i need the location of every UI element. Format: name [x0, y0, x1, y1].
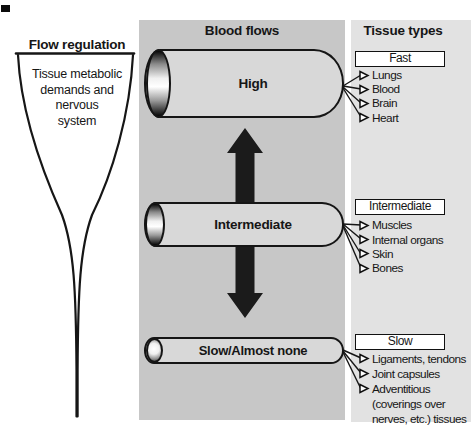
tissue-category-box-intermediate: Intermediate	[355, 199, 445, 215]
tissue-item-label: Ligaments, tendons	[372, 352, 466, 366]
triangle-bullet-icon	[359, 383, 370, 394]
triangle-bullet-icon	[359, 70, 370, 81]
tissue-item-continuation: nerves, etc.) tissues	[359, 412, 473, 427]
funnel-caption-line: Tissue metabolic	[25, 67, 129, 83]
tissue-item: Joint capsules	[359, 366, 473, 381]
tissue-list-fast: Lungs Blood Brain Heart	[359, 68, 473, 125]
funnel-caption-line: system	[25, 114, 129, 130]
tissue-item-continuation: (coverings over	[359, 397, 473, 412]
cylinder-high-label: High	[162, 49, 344, 118]
tissue-item-label: Blood	[372, 82, 400, 96]
tissue-item: Skin	[359, 247, 473, 261]
tissue-item: Ligaments, tendons	[359, 351, 473, 366]
funnel-caption: Tissue metabolic demands and nervous sys…	[25, 67, 129, 130]
tissue-item-label: Lungs	[372, 68, 402, 82]
tissue-item: Bones	[359, 261, 473, 275]
tissue-item-label: Bones	[372, 261, 403, 275]
tissue-item-label: Muscles	[372, 218, 412, 232]
blood-flow-diagram: Flow regulation Tissue metabolic demands…	[0, 0, 474, 440]
tissue-item-label: Joint capsules	[372, 367, 440, 381]
tissue-item-label: Internal organs	[372, 233, 443, 247]
triangle-bullet-icon	[359, 84, 370, 95]
tissue-item: Brain	[359, 96, 473, 110]
triangle-bullet-icon	[359, 368, 370, 379]
tissue-category-box-fast: Fast	[355, 51, 445, 67]
cylinder-slow-cap	[146, 338, 163, 363]
tissue-item-label: Skin	[372, 247, 393, 261]
tissue-item-label: Adventitious	[372, 382, 430, 396]
tissue-item-label: Brain	[372, 96, 397, 110]
triangle-bullet-icon	[359, 263, 370, 274]
triangle-bullet-icon	[359, 248, 370, 259]
funnel-caption-line: nervous	[25, 98, 129, 114]
triangle-bullet-icon	[359, 353, 370, 364]
cylinder-slow-label: Slow/Almost none	[162, 337, 344, 364]
cylinder-intermediate-label: Intermediate	[162, 202, 344, 247]
triangle-bullet-icon	[359, 220, 370, 231]
tissue-item-label: nerves, etc.) tissues	[372, 412, 466, 426]
tissue-item: Muscles	[359, 218, 473, 232]
tissue-item: Blood	[359, 82, 473, 96]
tissue-item: Heart	[359, 111, 473, 125]
tissue-item: Adventitious	[359, 381, 473, 396]
tissue-item: Lungs	[359, 68, 473, 82]
tissue-item-label: (coverings over	[372, 397, 445, 411]
tissue-list-intermediate: Muscles Internal organs Skin Bones	[359, 218, 473, 276]
triangle-bullet-icon	[359, 98, 370, 109]
tissue-list-slow: Ligaments, tendons Joint capsules Advent…	[359, 351, 473, 427]
funnel-caption-line: demands and	[25, 83, 129, 99]
tissue-item-label: Heart	[372, 111, 398, 125]
triangle-bullet-icon	[359, 112, 370, 123]
tissue-category-box-slow: Slow	[355, 334, 445, 350]
triangle-bullet-icon	[359, 234, 370, 245]
tissue-item: Internal organs	[359, 232, 473, 246]
